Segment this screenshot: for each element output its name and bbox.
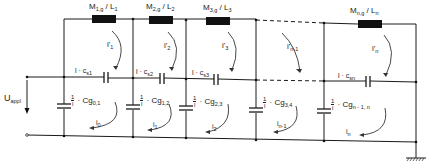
- lower-current-1: i1: [153, 121, 158, 131]
- applied-voltage-label: Uappl: [4, 94, 21, 105]
- series-cap-label-1: l · cs1: [75, 67, 92, 77]
- shunt-capacitor: [249, 108, 263, 113]
- series-capacitor: [214, 74, 218, 85]
- top-wire-dashed: [256, 20, 324, 23]
- series-capacitor: [104, 72, 108, 83]
- upper-current-2: i'2: [164, 42, 170, 52]
- inductor-1: [92, 15, 116, 23]
- upper-current-1: i'1: [107, 41, 113, 51]
- shunt-cap-label-n: 1l · Cgn - 1, n: [331, 98, 370, 111]
- lower-current-n-1: in-1: [277, 120, 287, 130]
- inductor-label-1: M1,g / L1: [89, 3, 118, 13]
- bottom-wire: [27, 135, 416, 142]
- shunt-cap-label-23: 1l · Cg2,3: [193, 95, 222, 108]
- terminal: [26, 134, 29, 137]
- inductor-2: [149, 16, 173, 24]
- series-cap-label-3: l · cs3: [192, 69, 209, 79]
- loop-current-arrow: [112, 31, 121, 70]
- loop-current-arrow: [228, 32, 236, 72]
- series-capacitor: [160, 73, 164, 84]
- shunt-capacitor: [317, 109, 331, 114]
- circuit-schematic: [0, 0, 431, 163]
- arrow-head-icon: [25, 108, 30, 114]
- shunt-capacitor: [57, 104, 71, 109]
- mid-wire-dashed: [256, 80, 324, 81]
- lower-current-0: i0: [96, 119, 101, 129]
- inductor-label-n: Mn,g / Ln: [350, 7, 379, 17]
- mid-wire: [218, 79, 256, 80]
- loop-current-arrow: [383, 35, 392, 77]
- lower-current-2: i2: [212, 123, 217, 133]
- shunt-capacitor: [126, 105, 140, 110]
- loop-current-arrow: [359, 108, 386, 137]
- series-capacitor: [366, 76, 370, 87]
- shunt-capacitor: [179, 106, 193, 111]
- shunt-cap-label-12: 1l · Cg1,2: [140, 94, 169, 107]
- terminal: [26, 76, 29, 79]
- inductor-n: [358, 20, 382, 28]
- series-cap-label-n: l · csn: [338, 72, 355, 82]
- inductor-label-3: M3,g / L3: [203, 4, 232, 14]
- top-wire: [324, 23, 358, 24]
- loop-current-arrow: [205, 104, 229, 134]
- lower-current-n: in: [346, 128, 351, 138]
- inductor-label-2: M2,g / L2: [146, 3, 175, 13]
- upper-current-3: i'3: [222, 42, 228, 52]
- loop-current-arrow: [147, 104, 171, 132]
- loop-current-arrow: [282, 33, 302, 73]
- inductor-3: [206, 17, 230, 25]
- loop-current-arrow: [168, 32, 177, 71]
- shunt-cap-label-01: 1l · Cg0,1: [71, 94, 100, 107]
- ground-icon: [406, 158, 426, 161]
- upper-current-n: i'n: [372, 45, 378, 55]
- mid-wire: [370, 81, 416, 82]
- shunt-cap-label-34: 1l · Cg3,4: [263, 96, 292, 109]
- series-cap-label-2: l · cs2: [136, 68, 153, 78]
- upper-current-n-1: i'n-1: [287, 43, 298, 53]
